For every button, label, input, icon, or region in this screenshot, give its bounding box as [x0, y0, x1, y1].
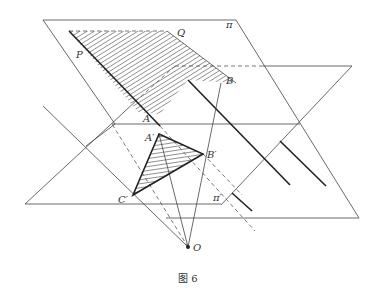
- plane-pi-edge: [43, 20, 359, 218]
- label-b-prime: B′: [206, 149, 217, 160]
- hatch-line: [60, 0, 250, 66]
- hatch-line: [125, 129, 210, 142]
- figure-caption: 图 6: [178, 273, 198, 284]
- label-b: B: [225, 75, 233, 86]
- hatch-line: [60, 0, 250, 75]
- hatch-line: [60, 25, 250, 143]
- hatch-line: [60, 110, 250, 228]
- hatch-line: [60, 74, 250, 192]
- hatch-line: [60, 0, 250, 80]
- line-pab: [69, 31, 160, 126]
- hatch-line: [60, 0, 250, 44]
- hatch-line: [60, 0, 250, 48]
- hatch-line: [60, 38, 250, 156]
- hatch-line: [125, 121, 210, 134]
- point-o: [186, 245, 190, 249]
- line-left-diagonal: [43, 106, 188, 247]
- label-c-prime: C′: [118, 194, 129, 205]
- hatch-line: [60, 0, 250, 107]
- hatch-line: [125, 221, 210, 234]
- line-ob: [188, 83, 221, 247]
- hatch-line: [60, 88, 250, 206]
- line-left-plane-edge: [86, 124, 115, 146]
- label-plane-pi: π: [225, 19, 233, 30]
- hatch-line: [125, 201, 210, 214]
- hatch-line: [125, 125, 210, 138]
- hatch-line: [125, 133, 210, 146]
- hatch-line: [60, 29, 250, 147]
- label-a-prime: A′: [144, 132, 155, 143]
- line-b-extension-lower: [232, 193, 252, 211]
- hatch-line: [125, 213, 210, 226]
- hatched-region-pq: [60, 0, 250, 259]
- label-p: P: [75, 49, 83, 60]
- hatch-line: [60, 11, 250, 129]
- label-o: O: [193, 242, 201, 253]
- hatch-line: [60, 0, 250, 111]
- hatched-triangle: [125, 117, 210, 238]
- plane-pi-left-edge: [43, 20, 115, 124]
- hatch-line: [60, 52, 250, 170]
- hatch-line: [60, 119, 250, 237]
- hatch-line: [60, 0, 250, 89]
- label-a: A: [142, 113, 150, 124]
- plane-pi-prime-left-edge: [25, 100, 137, 204]
- hatch-line: [125, 161, 210, 174]
- hatch-line: [125, 205, 210, 218]
- hatch-line: [125, 217, 210, 230]
- hatch-line: [60, 79, 250, 197]
- plane-pi-prime-right-edge: [221, 66, 352, 205]
- hatch-line: [60, 61, 250, 179]
- hatch-line: [60, 106, 250, 224]
- label-q: Q: [177, 27, 185, 38]
- hatch-line: [60, 0, 250, 116]
- hatch-line: [60, 0, 250, 98]
- triangle-abc-prime: [133, 134, 203, 195]
- hatch-line: [60, 47, 250, 165]
- hatch-line: [125, 209, 210, 222]
- hatch-line: [125, 137, 210, 150]
- hatch-line: [60, 0, 250, 39]
- hatch-line: [60, 0, 250, 53]
- hatch-line: [60, 7, 250, 125]
- hatch-line: [60, 16, 250, 134]
- hatch-line: [60, 0, 250, 84]
- hatch-line: [60, 70, 250, 188]
- line-right-segment: [280, 141, 326, 186]
- hatch-line: [60, 0, 250, 35]
- hatch-line: [60, 0, 250, 30]
- hatch-line: [60, 128, 250, 246]
- hatch-line: [125, 153, 210, 166]
- label-plane-pi-prime: π′: [212, 192, 223, 203]
- figure-6-diagram: Q P B A A′ B′ C′ O π π′ 图 6: [0, 0, 379, 294]
- hatch-line: [60, 0, 250, 71]
